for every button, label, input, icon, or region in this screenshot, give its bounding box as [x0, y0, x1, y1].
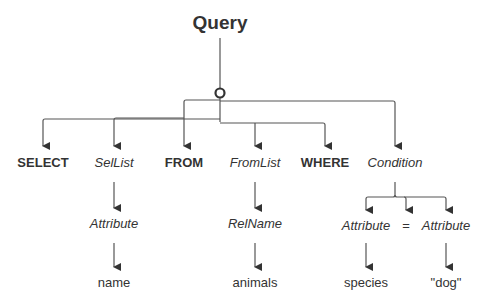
leaf-dog: "dog" [431, 275, 462, 291]
query-node-circle [216, 89, 225, 98]
node-condition-attribute-right: Attribute [422, 218, 470, 234]
node-relname: RelName [228, 216, 282, 232]
node-sellist-attribute: Attribute [90, 216, 138, 232]
node-condition-attribute-left: Attribute [342, 218, 390, 234]
node-condition: Condition [368, 155, 423, 171]
root-query-label: Query [193, 12, 248, 34]
parse-tree-connectors [0, 0, 487, 304]
leaf-animals: animals [233, 275, 278, 291]
leaf-name: name [98, 275, 131, 291]
node-sellist: SelList [94, 155, 133, 171]
node-from: FROM [165, 155, 203, 171]
node-select: SELECT [17, 155, 68, 171]
node-condition-equals: = [402, 218, 410, 234]
leaf-species: species [344, 275, 388, 291]
node-fromlist: FromList [230, 155, 281, 171]
node-where: WHERE [301, 155, 349, 171]
